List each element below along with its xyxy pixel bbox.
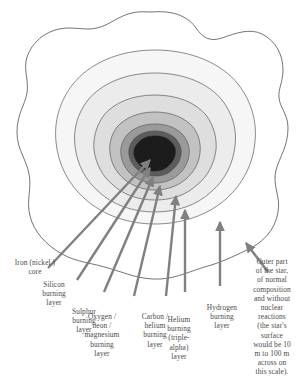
label-iron-core: Iron (nickel ) core [2, 258, 68, 276]
label-hydrogen-burning: Hydrogen burning layer [196, 303, 248, 331]
stellar-onion-layer-diagram: Iron (nickel ) core Silicon burning laye… [0, 0, 305, 388]
label-silicon-burning: Silicon burning layer [28, 280, 80, 308]
label-oxygen-neon-magnesium-burning: Oxygen / neon / magnesium burning layer [74, 312, 130, 358]
label-outer-envelope: Outer part of the star, of normal compos… [243, 257, 301, 377]
